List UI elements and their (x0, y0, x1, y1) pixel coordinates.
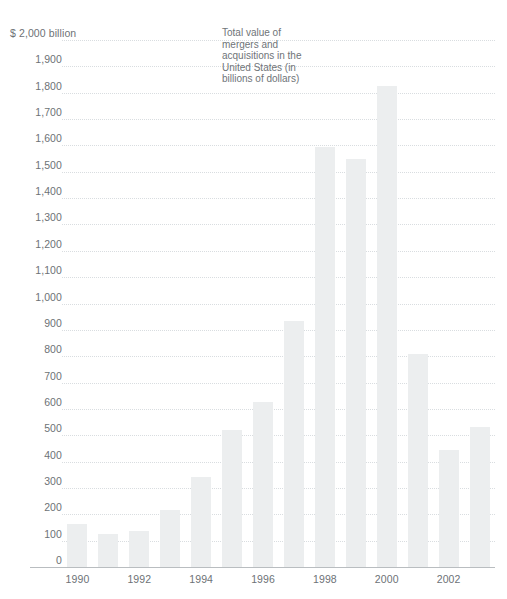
x-tick-label-1990: 1990 (52, 573, 102, 585)
y-tick-label: 600 (4, 397, 62, 408)
x-axis-line (30, 567, 495, 568)
bar-1994 (191, 477, 211, 567)
bar-1998 (315, 147, 335, 567)
y-tick-label: 200 (4, 502, 62, 513)
y-tick-label: 1,300 (4, 212, 62, 223)
y-tick-label: 1,100 (4, 265, 62, 276)
y-tick-label: 0 (4, 555, 62, 566)
bar-2001 (408, 354, 428, 567)
x-tick-label-1996: 1996 (238, 573, 288, 585)
y-tick-label: 1,600 (4, 133, 62, 144)
gridline (62, 514, 495, 515)
bar-chart: $ 2,000 billion1,9001,8001,7001,6001,500… (0, 0, 507, 599)
x-tick-label-2002: 2002 (424, 573, 474, 585)
y-tick-label: 100 (4, 529, 62, 540)
gridline (62, 277, 495, 278)
bar-1995 (222, 430, 242, 567)
gridline (62, 356, 495, 357)
y-tick-label: 400 (4, 450, 62, 461)
bar-1997 (284, 321, 304, 567)
y-tick-label: 1,000 (4, 292, 62, 303)
gridline (62, 172, 495, 173)
y-tick-label: 1,500 (4, 160, 62, 171)
bar-1999 (346, 159, 366, 567)
gridline (62, 198, 495, 199)
x-tick-label-2000: 2000 (362, 573, 412, 585)
x-tick-label-1998: 1998 (300, 573, 350, 585)
y-tick-label: 700 (4, 371, 62, 382)
y-tick-label: 1,900 (4, 54, 62, 65)
gridline (62, 93, 495, 94)
y-tick-label: 1,400 (4, 186, 62, 197)
annotation-line: United States (in (222, 62, 326, 74)
bar-1996 (253, 402, 273, 567)
y-tick-label: $ 2,000 billion (10, 28, 100, 39)
chart-annotation: Total value ofmergers andacquisitions in… (222, 27, 326, 85)
annotation-line: mergers and (222, 39, 326, 51)
annotation-line: billions of dollars) (222, 73, 326, 85)
x-tick-label-1994: 1994 (176, 573, 226, 585)
bar-1993 (160, 510, 180, 567)
y-axis-tick-labels: $ 2,000 billion1,9001,8001,7001,6001,500… (0, 0, 62, 599)
gridline (62, 541, 495, 542)
annotation-line: acquisitions in the (222, 50, 326, 62)
x-tick-label-1992: 1992 (114, 573, 164, 585)
gridline (62, 462, 495, 463)
bar-1992 (129, 531, 149, 567)
gridline (62, 488, 495, 489)
bar-2003 (470, 427, 490, 567)
gridline (62, 409, 495, 410)
y-tick-label: 1,200 (4, 239, 62, 250)
gridline (62, 383, 495, 384)
gridline (62, 119, 495, 120)
y-tick-label: 800 (4, 344, 62, 355)
y-tick-label: 300 (4, 476, 62, 487)
gridline (62, 330, 495, 331)
bar-1990 (67, 524, 87, 567)
plot-area (62, 40, 495, 567)
gridline (62, 224, 495, 225)
bar-1991 (98, 534, 118, 567)
gridline (62, 304, 495, 305)
gridline (62, 251, 495, 252)
gridline (62, 145, 495, 146)
bar-2000 (377, 86, 397, 567)
y-tick-label: 500 (4, 423, 62, 434)
y-tick-label: 1,700 (4, 107, 62, 118)
y-tick-label: 1,800 (4, 81, 62, 92)
bar-2002 (439, 450, 459, 567)
y-tick-label: 900 (4, 318, 62, 329)
gridline (62, 435, 495, 436)
annotation-line: Total value of (222, 27, 326, 39)
